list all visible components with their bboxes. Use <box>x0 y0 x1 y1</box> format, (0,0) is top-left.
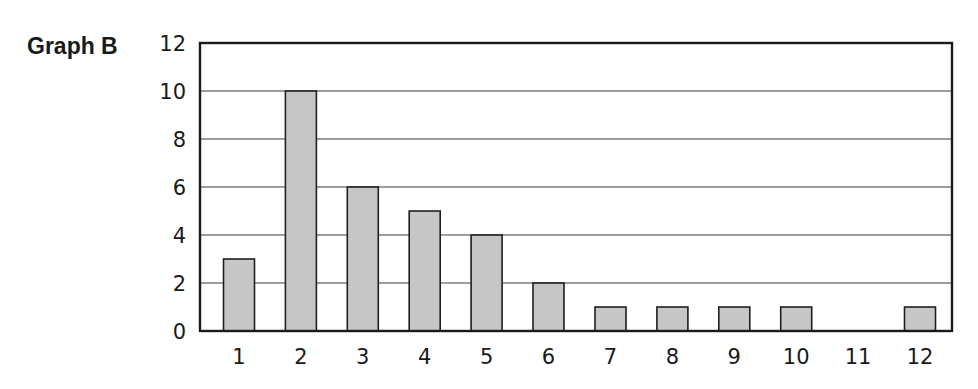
bar-9 <box>719 307 750 331</box>
y-tick-label: 6 <box>173 176 186 200</box>
x-tick-label: 9 <box>728 345 741 369</box>
bars <box>224 91 936 331</box>
x-tick-label: 5 <box>480 345 493 369</box>
x-axis-tick-labels: 123456789101112 <box>232 345 933 369</box>
x-tick-label: 6 <box>542 345 555 369</box>
y-tick-label: 2 <box>173 272 186 296</box>
bar-6 <box>533 283 564 331</box>
bar-chart: 024681012 123456789101112 <box>0 0 978 389</box>
x-tick-label: 7 <box>604 345 617 369</box>
bar-10 <box>781 307 812 331</box>
bar-2 <box>285 91 316 331</box>
bar-12 <box>905 307 936 331</box>
x-tick-label: 8 <box>666 345 679 369</box>
x-tick-label: 4 <box>418 345 431 369</box>
y-tick-label: 4 <box>173 224 186 248</box>
y-tick-label: 12 <box>159 32 186 56</box>
y-tick-label: 8 <box>173 128 186 152</box>
bar-5 <box>471 235 502 331</box>
x-tick-label: 10 <box>783 345 810 369</box>
bar-7 <box>595 307 626 331</box>
y-axis-tick-labels: 024681012 <box>159 32 186 344</box>
y-tick-label: 10 <box>159 80 186 104</box>
x-tick-label: 11 <box>845 345 872 369</box>
x-tick-label: 12 <box>907 345 934 369</box>
y-tick-label: 0 <box>173 320 186 344</box>
bar-3 <box>347 187 378 331</box>
x-tick-label: 3 <box>356 345 369 369</box>
bar-4 <box>409 211 440 331</box>
bar-8 <box>657 307 688 331</box>
bar-1 <box>224 259 255 331</box>
x-tick-label: 1 <box>232 345 245 369</box>
x-tick-label: 2 <box>294 345 307 369</box>
